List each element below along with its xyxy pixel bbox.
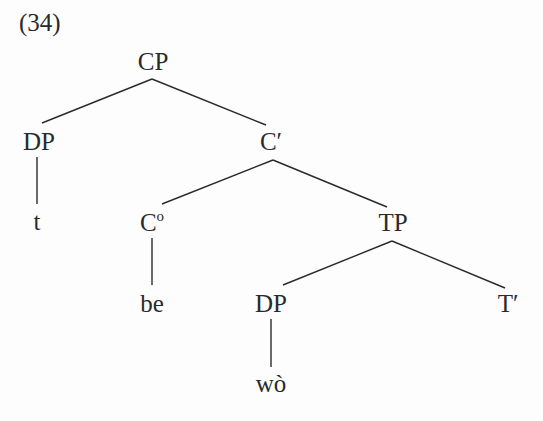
node-dp-specifier: DP: [23, 129, 55, 154]
node-be: be: [140, 291, 164, 316]
edge-cbar-c0: [162, 160, 273, 204]
syntax-tree-diagram: (34) CP DP t C′ Co be TP DP T′ wò: [0, 0, 543, 421]
edge-cp-dp1: [42, 79, 152, 123]
tree-edges: [0, 0, 543, 421]
node-c-bar: C′: [260, 129, 282, 154]
edge-tp-dp2: [283, 241, 392, 285]
node-tp: TP: [378, 210, 407, 235]
node-t-bar: T′: [498, 291, 519, 316]
example-number: (34): [19, 10, 61, 35]
node-trace-t: t: [34, 209, 41, 234]
node-cp: CP: [138, 49, 169, 74]
node-dp-subject: DP: [255, 291, 287, 316]
edge-cbar-tp: [273, 160, 387, 207]
node-c-zero: Co: [140, 210, 164, 235]
node-wo: wò: [256, 371, 287, 396]
edge-tp-tbar: [392, 241, 505, 288]
edge-cp-cbar: [152, 79, 266, 125]
